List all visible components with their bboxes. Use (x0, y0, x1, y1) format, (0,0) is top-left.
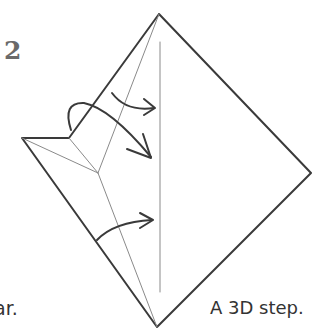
crease-lower (98, 173, 157, 327)
middle-arrow-icon (68, 103, 151, 157)
caption-left: ar. (0, 297, 18, 319)
caption-right: A 3D step. (210, 297, 304, 318)
outline (22, 14, 311, 327)
lower-arrow-icon (97, 220, 152, 240)
crease-notch (69, 138, 98, 173)
upper-arrowhead-icon (144, 99, 155, 115)
middle-arrowhead-icon (127, 134, 151, 158)
origami-diagram (0, 0, 330, 328)
